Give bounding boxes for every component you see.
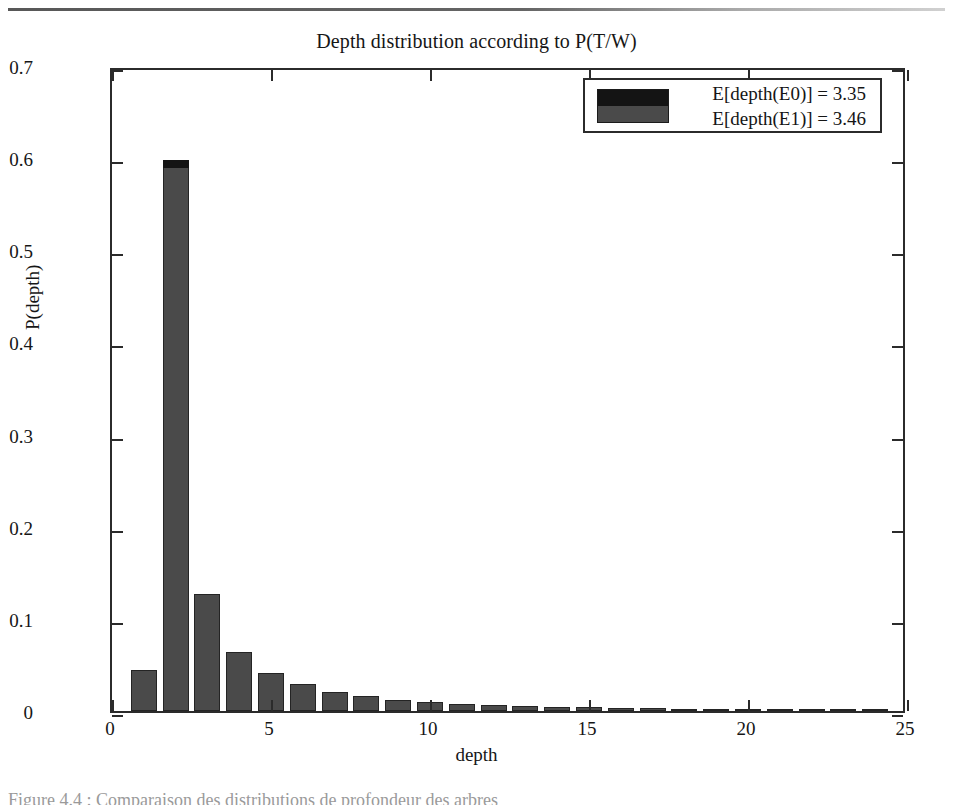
y-axis-tick-label: 0.5 xyxy=(0,241,33,263)
y-axis-tick-mark xyxy=(892,254,903,256)
chart-title: Depth distribution according to P(T/W) xyxy=(0,30,953,53)
bar xyxy=(544,707,570,711)
x-axis-tick-mark xyxy=(430,700,432,711)
bar xyxy=(703,709,729,711)
y-axis-tick-label: 0.6 xyxy=(0,149,33,171)
chart-legend: E[depth(E0)] = 3.35E[depth(E1)] = 3.46 xyxy=(583,78,882,133)
x-axis-tick-mark xyxy=(907,700,909,711)
y-axis-tick-label: 0.1 xyxy=(0,610,33,632)
y-axis-tick-label: 0.4 xyxy=(0,333,33,355)
x-axis-tick-mark xyxy=(430,70,432,81)
y-axis-tick-label: 0.7 xyxy=(0,57,33,79)
x-axis-tick-label: 20 xyxy=(706,718,786,740)
bar xyxy=(640,708,666,711)
y-axis-tick-mark xyxy=(112,254,123,256)
bar xyxy=(226,652,252,711)
y-axis-tick-mark xyxy=(892,162,903,164)
bar xyxy=(481,705,507,711)
y-axis-tick-mark xyxy=(892,623,903,625)
bar xyxy=(671,709,697,711)
x-axis-tick-mark xyxy=(589,700,591,711)
plot-area xyxy=(110,68,905,713)
y-axis-tick-mark xyxy=(112,162,123,164)
legend-label: E[depth(E0)] = 3.35 xyxy=(712,81,866,106)
y-axis-tick-mark xyxy=(112,715,123,717)
bar xyxy=(608,708,634,711)
y-axis-tick-mark xyxy=(112,531,123,533)
x-axis-tick-label: 10 xyxy=(388,718,468,740)
bar-series-layer xyxy=(112,70,903,711)
x-axis-tick-label: 15 xyxy=(547,718,627,740)
y-axis-tick-label: 0 xyxy=(0,702,33,724)
bar xyxy=(322,692,348,711)
bar xyxy=(194,594,220,711)
x-axis-tick-mark xyxy=(748,700,750,711)
x-axis-label: depth xyxy=(0,744,953,766)
x-axis-tick-mark xyxy=(112,700,114,711)
bar xyxy=(290,684,316,711)
y-axis-tick-mark xyxy=(112,439,123,441)
y-axis-tick-mark xyxy=(112,346,123,348)
y-axis-tick-mark xyxy=(892,531,903,533)
y-axis-tick-mark xyxy=(892,346,903,348)
bar xyxy=(131,670,157,711)
y-axis-tick-mark xyxy=(112,623,123,625)
bar xyxy=(830,709,856,711)
bar xyxy=(163,160,189,711)
x-axis-tick-label: 25 xyxy=(865,718,945,740)
bar xyxy=(385,700,411,711)
legend-swatch-group xyxy=(597,89,669,123)
x-axis-tick-label: 5 xyxy=(229,718,309,740)
bar xyxy=(767,709,793,711)
y-axis-tick-mark xyxy=(892,439,903,441)
legend-swatch xyxy=(598,90,668,106)
y-axis-tick-label: 0.2 xyxy=(0,518,33,540)
bar xyxy=(862,709,888,711)
bar xyxy=(512,706,538,711)
x-axis-tick-label: 0 xyxy=(70,718,150,740)
legend-swatch xyxy=(598,106,668,122)
figure-depth-distribution: Depth distribution according to P(T/W) P… xyxy=(0,0,953,805)
y-axis-tick-mark xyxy=(892,70,903,72)
x-axis-tick-mark xyxy=(271,700,273,711)
x-axis-tick-mark xyxy=(112,70,114,81)
figure-caption: Figure 4.4 : Comparaison des distributio… xyxy=(8,790,908,805)
x-axis-tick-mark xyxy=(271,70,273,81)
bar xyxy=(449,704,475,711)
bar-cap-e0 xyxy=(163,160,189,168)
bar xyxy=(353,696,379,711)
y-axis-tick-mark xyxy=(892,715,903,717)
bar xyxy=(799,709,825,711)
y-axis-label: P(depth) xyxy=(22,265,44,330)
y-axis-tick-label: 0.3 xyxy=(0,426,33,448)
legend-label: E[depth(E1)] = 3.46 xyxy=(712,106,866,131)
x-axis-tick-mark xyxy=(907,70,909,81)
legend-label-group: E[depth(E0)] = 3.35E[depth(E1)] = 3.46 xyxy=(675,81,872,131)
